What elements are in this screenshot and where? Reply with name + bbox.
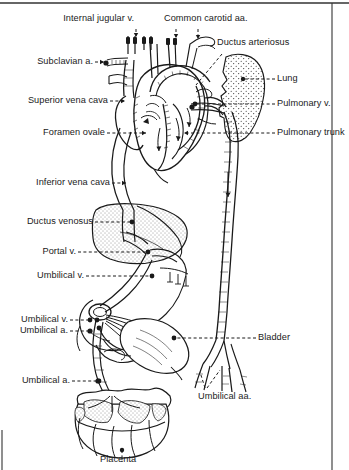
label-pulmonary-v: Pulmonary v. bbox=[277, 99, 331, 108]
lung-shape bbox=[219, 54, 265, 141]
leader-umbilical-aa-2 bbox=[207, 370, 220, 388]
placenta-shape bbox=[75, 388, 171, 458]
label-umbilical-a-2: Umbilical a. bbox=[0, 376, 70, 385]
ductus-arteriosus-and-pulmonary-vessels bbox=[178, 86, 226, 154]
label-inferior-vena-cava: Inferior vena cava bbox=[0, 178, 110, 187]
label-subclavian-a: Subclavian a. bbox=[0, 57, 93, 66]
liver-shape bbox=[92, 204, 187, 264]
fetal-circulation-illustration bbox=[0, 0, 349, 470]
vessel-valve-markers bbox=[126, 37, 177, 45]
heart-shape bbox=[115, 65, 204, 184]
label-bladder: Bladder bbox=[258, 333, 290, 342]
label-portal-v: Portal v. bbox=[0, 247, 76, 256]
bladder-shape bbox=[120, 319, 189, 380]
label-pulmonary-trunk: Pulmonary trunk bbox=[277, 128, 345, 137]
label-foramen-ovale: Foramen ovale bbox=[0, 128, 105, 137]
label-ductus-arteriosus: Ductus arteriosus bbox=[217, 38, 289, 47]
label-umbilical-aa: Umbilical aa. bbox=[198, 392, 251, 401]
label-superior-vena-cava: Superior vena cava bbox=[0, 96, 108, 105]
label-umbilical-a: Umbilical a. bbox=[0, 326, 68, 335]
fetal-circulation-figure: Internal jugular v. Common carotid aa. D… bbox=[0, 0, 349, 470]
label-lung: Lung bbox=[277, 74, 298, 83]
label-umbilical-v-2: Umbilical v. bbox=[0, 315, 68, 324]
label-umbilical-v: Umbilical v. bbox=[0, 271, 84, 280]
label-internal-jugular-v: Internal jugular v. bbox=[0, 14, 134, 23]
great-vessels bbox=[103, 36, 215, 98]
label-placenta: Placenta bbox=[100, 455, 136, 464]
label-ductus-venosus: Ductus venosus bbox=[0, 217, 93, 226]
leader-umbilical-aa-1 bbox=[200, 372, 205, 388]
descending-aorta bbox=[203, 112, 240, 370]
label-common-carotid-aa: Common carotid aa. bbox=[164, 14, 248, 23]
